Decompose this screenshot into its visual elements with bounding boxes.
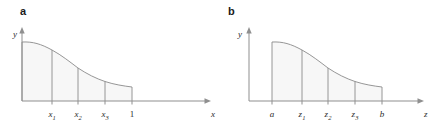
x-tick-label-b-1: a: [270, 110, 275, 121]
x-tick-label-a-2-sub: 2: [78, 114, 81, 121]
x-axis-label-a: x: [211, 110, 215, 119]
panel-a-plot: [0, 0, 222, 135]
x-tick-label-b-1-base: a: [270, 109, 275, 119]
area-under-curve-a: [22, 42, 132, 101]
x-axis-arrow-a: [205, 98, 212, 103]
x-tick-label-a-3-sub: 3: [105, 114, 108, 121]
x-tick-label-b-4: z3: [352, 110, 359, 121]
panel-b-plot: [222, 0, 445, 135]
x-axis-label-b: z: [424, 110, 428, 119]
x-tick-label-a-4-base: 1: [130, 109, 135, 119]
x-tick-label-b-5-base: b: [380, 109, 385, 119]
y-axis-label-a: y: [13, 30, 17, 39]
y-axis-arrow-b: [246, 27, 251, 34]
x-tick-label-b-4-sub: 3: [355, 114, 358, 121]
y-axis-arrow-a: [19, 27, 24, 34]
x-tick-label-b-2: z1: [299, 110, 306, 121]
panel-a: a y x: [0, 0, 222, 135]
area-under-curve-b: [272, 42, 382, 101]
x-tick-label-a-1: x1: [48, 110, 55, 121]
x-tick-label-b-3-sub: 2: [328, 114, 331, 121]
panel-b: b y z: [222, 0, 445, 135]
x-tick-label-b-2-sub: 1: [302, 114, 305, 121]
x-tick-label-a-3: x3: [101, 110, 108, 121]
x-tick-label-b-3: z2: [325, 110, 332, 121]
figure-container: a y x: [0, 0, 445, 135]
x-tick-label-b-5: b: [380, 110, 385, 121]
x-axis-arrow-b: [418, 98, 425, 103]
y-axis-label-b: y: [238, 30, 242, 39]
x-tick-label-a-2: x2: [74, 110, 81, 121]
x-tick-label-a-4: 1: [130, 110, 135, 119]
x-tick-label-a-1-sub: 1: [52, 114, 55, 121]
